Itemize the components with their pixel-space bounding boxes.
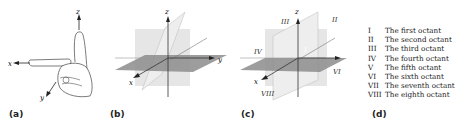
- octant-label-vi: VI: [333, 68, 341, 76]
- y-axis-label: y: [39, 94, 45, 102]
- legend-row: IVThe fourth octant: [368, 54, 455, 63]
- x-axis-label: x: [254, 78, 258, 86]
- panel-b-coordinate-planes: z y x (b): [115, 0, 230, 131]
- x-axis-label: x: [8, 60, 12, 68]
- octant-legend: IThe first octant IIThe second octant II…: [368, 26, 455, 100]
- z-axis-label: z: [164, 8, 169, 16]
- panel-a-right-hand-rule: z x y (a): [0, 0, 115, 131]
- panel-label-c: (c): [241, 109, 255, 119]
- legend-row: VThe fifth octant: [368, 63, 455, 72]
- x-axis-label: x: [129, 79, 133, 87]
- legend-row: VIIIThe eighth octant: [368, 90, 455, 99]
- octant-label-ii: II: [331, 16, 338, 24]
- panel-label-d: (d): [372, 109, 387, 119]
- legend-row: IThe first octant: [368, 26, 455, 35]
- octant-label-i: I: [303, 46, 307, 54]
- panel-label-a: (a): [9, 109, 23, 119]
- panel-label-b: (b): [110, 109, 125, 119]
- planes-diagram: z y x: [115, 0, 230, 131]
- legend-row: IIIThe third octant: [368, 44, 455, 53]
- octant-label-iv: IV: [253, 48, 263, 56]
- z-axis-label: z: [75, 8, 80, 16]
- legend-row: VIIThe seventh octant: [368, 81, 455, 90]
- legend-row: IIThe second octant: [368, 35, 455, 44]
- octant-label-viii: VIII: [261, 90, 275, 98]
- legend-row: VIThe sixth octant: [368, 72, 455, 81]
- octant-label-iii: III: [280, 18, 290, 26]
- z-axis-label: z: [294, 8, 299, 16]
- panel-c-octants: z x III II IV I VI VIII (c): [225, 0, 350, 131]
